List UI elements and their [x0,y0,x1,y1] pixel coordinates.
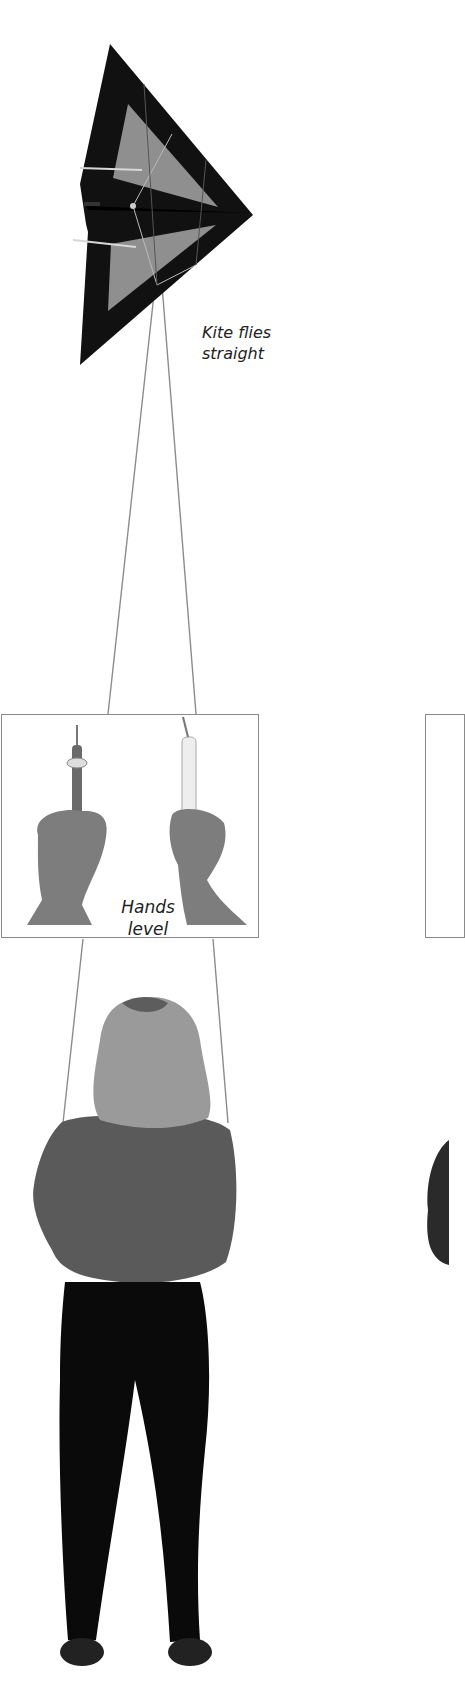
second-flier-partial [427,1140,449,1265]
person-icon [33,997,236,1666]
